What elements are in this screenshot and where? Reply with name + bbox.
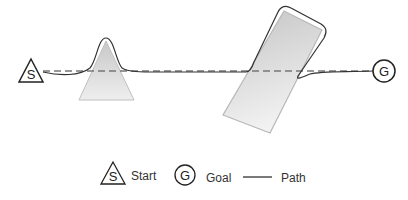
legend-path: Path: [243, 171, 306, 185]
legend-goal-label: Goal: [206, 171, 231, 185]
legend-start-symbol: S: [109, 169, 118, 184]
legend: S Start G Goal Path: [101, 162, 306, 185]
goal-symbol-label: G: [379, 64, 389, 79]
legend-path-label: Path: [281, 171, 306, 185]
legend-start: S Start: [101, 162, 157, 184]
legend-start-label: Start: [131, 169, 157, 183]
start-marker: S: [19, 59, 43, 82]
legend-goal: G Goal: [175, 165, 231, 185]
legend-goal-symbol: G: [180, 168, 190, 183]
path-planning-diagram: S G S Start G Goal Path: [0, 0, 408, 200]
start-symbol-label: S: [27, 67, 36, 82]
goal-marker: G: [373, 60, 395, 82]
planned-path: [43, 6, 373, 78]
